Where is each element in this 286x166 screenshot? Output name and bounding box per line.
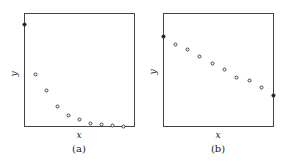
data-point-filled: [162, 35, 165, 38]
panel-caption-b: (b): [211, 143, 225, 154]
data-points-b: [162, 35, 275, 97]
y-axis-label-a: y: [9, 71, 19, 78]
data-point-filled: [23, 23, 26, 26]
data-point: [186, 48, 189, 51]
y-axis-label-b: y: [148, 69, 158, 76]
x-axis-label-b: x: [215, 130, 220, 140]
data-point: [78, 118, 81, 121]
data-point: [100, 123, 103, 126]
x-axis-label-a: x: [76, 130, 81, 140]
data-point: [67, 114, 70, 117]
data-point: [56, 105, 59, 108]
data-points-a: [23, 23, 125, 128]
data-point-filled: [272, 94, 275, 97]
data-point: [174, 43, 177, 46]
data-point: [34, 73, 37, 76]
data-point: [89, 122, 92, 125]
plot-frame-a: [25, 14, 135, 127]
data-point: [111, 124, 114, 127]
panel-caption-a: (a): [72, 143, 86, 154]
data-point: [122, 125, 125, 128]
data-point: [211, 62, 214, 65]
figure: y x (a) y x (b): [0, 0, 286, 166]
data-point: [223, 68, 226, 71]
data-point: [198, 55, 201, 58]
data-point: [248, 79, 251, 82]
plot-frame-b: [164, 14, 274, 127]
panel-b: y x (b): [148, 14, 275, 155]
data-point: [45, 89, 48, 92]
panel-a: y x (a): [9, 14, 135, 155]
data-point: [235, 76, 238, 79]
data-point: [260, 86, 263, 89]
